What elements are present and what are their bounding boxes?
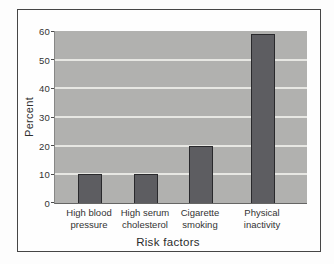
y-tick-label: 60 [39, 26, 50, 37]
bar [134, 174, 158, 203]
y-axis-tick-mark [51, 88, 54, 89]
x-axis-title: Risk factors [42, 236, 294, 248]
y-tick-label: 20 [39, 140, 50, 151]
y-axis-tick-mark [51, 117, 54, 118]
y-tick-label: 30 [39, 112, 50, 123]
bar [78, 174, 102, 203]
chart-frame: Percent 0102030405060 Risk factors High … [17, 9, 321, 252]
y-axis-ticks: 0102030405060 [18, 31, 50, 203]
y-axis-tick-mark [51, 202, 54, 203]
y-axis-tick-mark [51, 174, 54, 175]
y-tick-label: 0 [45, 198, 50, 209]
x-category-label: Physical inactivity [226, 207, 298, 230]
bar [189, 146, 213, 203]
plot-area [54, 31, 307, 204]
y-tick-label: 40 [39, 83, 50, 94]
y-tick-label: 10 [39, 169, 50, 180]
y-axis-tick-mark [51, 31, 54, 32]
bar [251, 34, 275, 203]
scanned-figure-page: Percent 0102030405060 Risk factors High … [0, 0, 334, 264]
y-axis-tick-mark [51, 59, 54, 60]
y-axis-tick-mark [51, 145, 54, 146]
y-tick-label: 50 [39, 54, 50, 65]
